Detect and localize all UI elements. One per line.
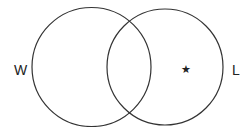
circle-l [107, 9, 223, 125]
label-l: L [232, 62, 240, 78]
star-marker-icon: ★ [181, 63, 191, 76]
circle-w [32, 8, 151, 127]
venn-diagram: W L ★ [0, 0, 247, 127]
label-w: W [14, 62, 28, 78]
